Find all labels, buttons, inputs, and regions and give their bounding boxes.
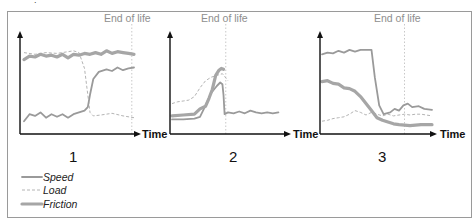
- end-of-life-label: End of life: [201, 12, 248, 24]
- x-axis-arrow-icon: [134, 131, 141, 137]
- load-series-line: [24, 51, 134, 118]
- figure-frame: [8, 12, 472, 218]
- panel-label-2: 2: [229, 148, 237, 165]
- x-axis-arrow-icon: [430, 131, 437, 137]
- y-axis-arrow-icon: [167, 31, 173, 38]
- speed-series-line: [24, 68, 134, 122]
- clipped-text-fragment: .: [34, 0, 37, 5]
- legend-friction-label: Friction: [43, 198, 78, 210]
- x-axis-label: Time: [142, 128, 167, 140]
- panel-label-1: 1: [69, 148, 77, 165]
- x-axis-arrow-icon: [284, 131, 291, 137]
- legend-speed-label: Speed: [43, 171, 75, 183]
- panel-1: End of lifeTime: [17, 12, 167, 140]
- panel-3: End of lifeTime: [317, 12, 465, 140]
- y-axis-arrow-icon: [317, 31, 323, 38]
- x-axis-label: Time: [293, 128, 318, 140]
- friction-series-line: [172, 68, 224, 116]
- legend: Speed Load Friction: [22, 171, 78, 210]
- x-axis-label: Time: [440, 128, 465, 140]
- end-of-life-label: End of life: [374, 12, 421, 24]
- panel-2: End of lifeTime: [167, 12, 318, 140]
- legend-load-label: Load: [43, 184, 68, 196]
- load-series-line: [172, 74, 228, 104]
- end-of-life-label: End of life: [104, 12, 151, 24]
- failure-modes-diagram: . End of lifeTimeEnd of lifeTimeEnd of l…: [0, 0, 476, 224]
- panel-label-3: 3: [378, 148, 386, 165]
- speed-series-line: [322, 50, 432, 114]
- y-axis-arrow-icon: [17, 31, 23, 38]
